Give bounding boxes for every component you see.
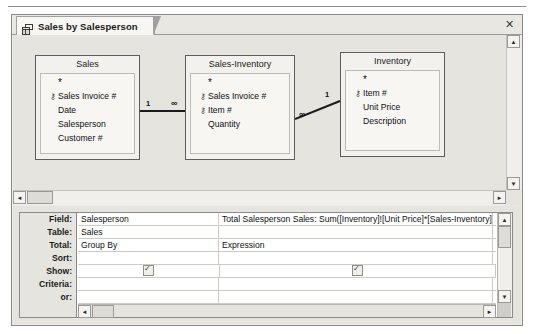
diagram-canvas[interactable]: Sales * ⚷ Sales Invoice # Date — [13, 35, 505, 190]
join-1-right-cardinality: ∞ — [171, 99, 177, 107]
grid-vertical-scrollbar[interactable]: ▲ ▼ — [497, 213, 512, 317]
grid-cells-area: Salesperson Total Salesperson Sales: Sum… — [78, 213, 496, 317]
field-name: * — [208, 80, 212, 86]
scroll-up-arrow-icon[interactable]: ▲ — [507, 35, 520, 48]
cell-sort-col1[interactable] — [78, 252, 219, 264]
field-list-body: * ⚷ Sales Invoice # ⚷ Item # Quantity — [190, 73, 290, 154]
primary-key-icon: ⚷ — [197, 92, 208, 101]
document-tab-strip: Sales by Salesperson ✕ — [12, 15, 522, 35]
query-design-grid-pane: Field: Table: Total: Sort: Show: Criteri… — [13, 206, 521, 324]
close-icon[interactable]: ✕ — [503, 18, 516, 31]
field-row[interactable]: ⚷ Item # — [346, 86, 439, 100]
grid-vscroll-thumb[interactable] — [498, 226, 511, 248]
field-row[interactable]: * — [41, 77, 134, 89]
field-row[interactable]: ⚷ Item # — [191, 103, 289, 117]
cell-criteria-col1[interactable] — [78, 278, 219, 290]
field-name: * — [363, 77, 367, 83]
field-name: Salesperson — [58, 119, 106, 129]
query-design-icon — [22, 21, 33, 32]
access-query-design-window: Sales by Salesperson ✕ Sales * ⚷ — [0, 0, 534, 334]
grid-scroll-left-arrow-icon[interactable]: ◄ — [78, 305, 91, 318]
field-row[interactable]: * — [346, 74, 439, 86]
diagram-vertical-scrollbar[interactable]: ▲ ▼ — [506, 35, 521, 190]
page-divider-rule — [8, 6, 526, 7]
cell-table-col1[interactable]: Sales — [78, 226, 219, 238]
cell-show-col2[interactable] — [220, 265, 496, 277]
query-design-grid: Field: Table: Total: Sort: Show: Criteri… — [19, 212, 513, 318]
cell-total-col3[interactable] — [493, 239, 496, 251]
cell-field-col1[interactable]: Salesperson — [78, 213, 219, 225]
field-name: * — [58, 80, 62, 86]
field-row[interactable]: * — [191, 77, 289, 89]
grid-row-criteria — [78, 278, 496, 291]
grid-vscroll-lower-track — [498, 303, 511, 317]
field-row[interactable]: ⚷ Sales Invoice # — [191, 89, 289, 103]
grid-row-table: Sales — [78, 226, 496, 239]
cell-field-col2[interactable]: Total Salesperson Sales: Sum([Inventory]… — [219, 213, 493, 225]
field-row[interactable]: ⚷ Sales Invoice # — [41, 89, 134, 103]
cell-field-col3[interactable] — [493, 213, 496, 225]
grid-row-show — [78, 265, 496, 278]
field-name: Quantity — [208, 119, 240, 129]
cell-or-col3[interactable] — [493, 291, 496, 303]
cell-table-col2[interactable] — [219, 226, 493, 238]
grid-scroll-down-arrow-icon[interactable]: ▼ — [498, 290, 511, 303]
cell-table-col3[interactable] — [493, 226, 496, 238]
cell-sort-col2[interactable] — [219, 252, 493, 264]
diagram-scrollbar-corner — [506, 190, 521, 205]
field-list-title: Sales-Inventory — [186, 56, 294, 72]
field-list-body: * ⚷ Sales Invoice # Date Salesperson — [40, 73, 135, 154]
join-2-right-cardinality: 1 — [325, 91, 329, 99]
row-label-sort: Sort: — [20, 252, 76, 265]
row-label-criteria: Criteria: — [20, 278, 76, 291]
grid-horizontal-scrollbar[interactable]: ◄ ► — [78, 304, 496, 317]
field-list-sales[interactable]: Sales * ⚷ Sales Invoice # Date — [35, 55, 140, 160]
field-name: Item # — [208, 105, 232, 115]
primary-key-icon: ⚷ — [47, 92, 58, 101]
grid-vscroll-track[interactable] — [498, 248, 511, 290]
grid-scroll-right-arrow-icon[interactable]: ► — [483, 305, 496, 318]
cell-show-col1[interactable] — [78, 265, 220, 277]
field-name: Item # — [363, 88, 387, 98]
field-list-sales-inventory[interactable]: Sales-Inventory * ⚷ Sales Invoice # ⚷ I — [185, 55, 295, 160]
show-checkbox-col2[interactable] — [352, 265, 363, 276]
diagram-horizontal-scrollbar[interactable]: ◄ ► — [13, 190, 506, 205]
grid-row-or — [78, 291, 496, 304]
scroll-down-arrow-icon[interactable]: ▼ — [507, 177, 520, 190]
field-name: Description — [363, 116, 406, 126]
field-name: Sales Invoice # — [208, 91, 266, 101]
show-checkbox-col1[interactable] — [143, 265, 154, 276]
grid-scroll-up-arrow-icon[interactable]: ▲ — [498, 213, 511, 226]
join-line-1[interactable] — [140, 110, 185, 112]
query-window: Sales by Salesperson ✕ Sales * ⚷ — [11, 14, 523, 326]
field-row[interactable]: Salesperson — [41, 117, 134, 131]
cell-total-col1[interactable]: Group By — [78, 239, 219, 251]
cell-or-col2[interactable] — [219, 291, 493, 303]
row-label-or: or: — [20, 291, 76, 304]
diagram-hscroll-thumb[interactable] — [27, 191, 53, 204]
field-row[interactable]: Customer # — [41, 131, 134, 145]
cell-total-col2[interactable]: Expression — [219, 239, 493, 251]
grid-row-field: Salesperson Total Salesperson Sales: Sum… — [78, 213, 496, 226]
field-list-title: Sales — [36, 56, 139, 72]
field-list-title: Inventory — [341, 53, 444, 69]
cell-criteria-col2[interactable] — [219, 278, 493, 290]
scroll-left-arrow-icon[interactable]: ◄ — [13, 191, 26, 204]
field-name: Customer # — [58, 133, 102, 143]
field-list-inventory[interactable]: Inventory * ⚷ Item # Unit Price — [340, 52, 445, 157]
scroll-right-arrow-icon[interactable]: ► — [493, 191, 506, 204]
grid-hscroll-thumb[interactable] — [92, 305, 114, 318]
join-2-left-cardinality: ∞ — [299, 110, 305, 118]
grid-row-header-column: Field: Table: Total: Sort: Show: Criteri… — [20, 213, 77, 317]
tab-sales-by-salesperson[interactable]: Sales by Salesperson — [16, 16, 155, 35]
cell-criteria-col3[interactable] — [493, 278, 496, 290]
cell-sort-col3[interactable] — [493, 252, 496, 264]
cell-or-col1[interactable] — [78, 291, 219, 303]
field-row[interactable]: Date — [41, 103, 134, 117]
field-row[interactable]: Quantity — [191, 117, 289, 131]
field-row[interactable]: Unit Price — [346, 100, 439, 114]
field-name: Date — [58, 105, 76, 115]
row-label-show: Show: — [20, 265, 76, 278]
field-row[interactable]: Description — [346, 114, 439, 128]
diagram-vscroll-track[interactable] — [507, 48, 520, 177]
